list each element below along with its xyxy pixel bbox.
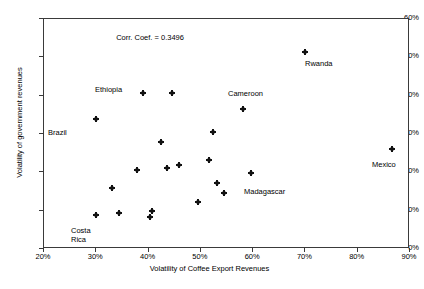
y-axis-title: Volatility of government revenues (15, 38, 24, 208)
data-point-label: Brazil (48, 128, 67, 137)
data-point-label: Rwanda (305, 59, 333, 68)
x-tick-label: 70% (284, 252, 324, 261)
x-tick-label: 80% (337, 252, 377, 261)
data-point (94, 213, 98, 217)
plot-area (43, 18, 409, 248)
data-point-label: Rica (71, 235, 86, 244)
data-point-label: Costa (71, 226, 91, 235)
data-point (159, 140, 163, 144)
data-point (170, 91, 174, 95)
data-point (117, 211, 121, 215)
data-point (215, 181, 219, 185)
data-point (207, 158, 211, 162)
x-tick-label: 90% (389, 252, 424, 261)
x-tick-label: 60% (232, 252, 272, 261)
x-axis-title: Volatility of Coffee Export Revenues (0, 264, 419, 273)
data-point-label: Cameroon (228, 89, 263, 98)
data-point (390, 147, 394, 151)
data-point-label: Mexico (372, 160, 396, 169)
x-tick-label: 40% (128, 252, 168, 261)
data-point (222, 191, 226, 195)
x-tick-label: 30% (75, 252, 115, 261)
data-point (196, 200, 200, 204)
data-point (241, 107, 245, 111)
x-tick-label: 50% (180, 252, 220, 261)
data-point (249, 171, 253, 175)
correlation-annotation: Corr. Coef. = 0.3496 (116, 33, 184, 42)
data-point (165, 166, 169, 170)
data-point (135, 168, 139, 172)
data-point-label: Ethiopia (95, 85, 122, 94)
data-point (94, 117, 98, 121)
data-point (150, 209, 154, 213)
data-point (141, 91, 145, 95)
data-point (148, 215, 152, 219)
data-point (211, 130, 215, 134)
x-tick-label: 20% (23, 252, 63, 261)
data-point (177, 163, 181, 167)
data-point (303, 50, 307, 54)
data-point-label: Madagascar (244, 187, 285, 196)
data-point (110, 186, 114, 190)
